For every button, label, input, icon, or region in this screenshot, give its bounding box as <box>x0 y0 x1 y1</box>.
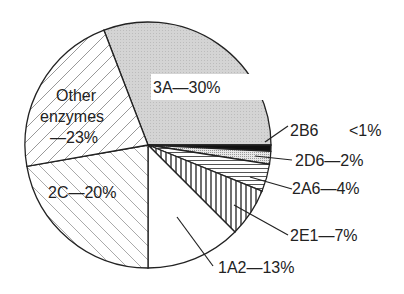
label-2e1: 2E1—7% <box>290 227 358 244</box>
label-other-line3: —23% <box>50 129 98 146</box>
label-2b6-name: 2B6 <box>290 122 319 139</box>
label-3a: 3A—30% <box>153 79 221 96</box>
label-2a6: 2A6—4% <box>292 180 360 197</box>
label-2d6: 2D6—2% <box>295 152 363 169</box>
label-other-line1: Other <box>56 87 97 104</box>
pie-chart: 3A—30% Other enzymes —23% 2C—20% 2B6 <1%… <box>0 0 404 294</box>
label-other-line2: enzymes <box>40 108 104 125</box>
label-2b6-value: <1% <box>349 122 381 139</box>
label-2c: 2C—20% <box>48 184 116 201</box>
label-1a2: 1A2—13% <box>218 259 295 276</box>
